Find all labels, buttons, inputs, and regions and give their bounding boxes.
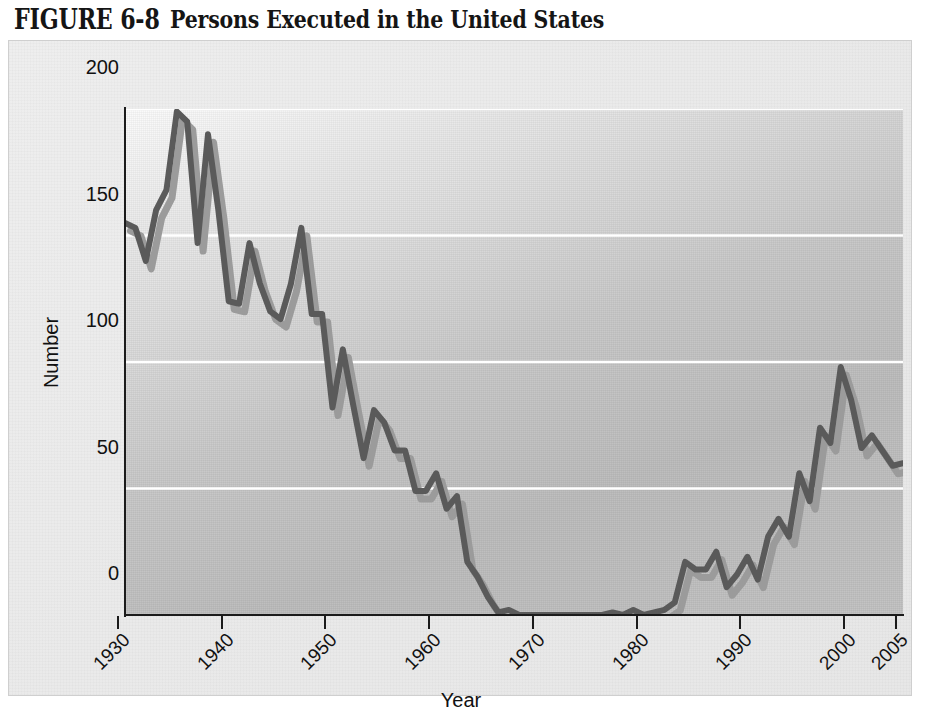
x-tick-label: 1950 (285, 629, 342, 686)
series-line (125, 112, 903, 615)
x-axis-title: Year (9, 689, 913, 712)
x-tick-mark (117, 616, 119, 629)
x-tick-label: 2005 (856, 629, 913, 686)
x-tick-mark (895, 616, 897, 629)
x-tick-label: 1980 (597, 629, 654, 686)
x-tick-mark (324, 616, 326, 629)
y-tick-label: 0 (47, 562, 119, 585)
x-tick-label: 1970 (493, 629, 550, 686)
figure-caption: Persons Executed in the United States (170, 5, 604, 34)
plot-area (125, 109, 903, 615)
x-tick-label: 2000 (804, 629, 861, 686)
figure-panel: 050100150200 Number 19301940195019601970… (8, 40, 912, 696)
x-tick-mark (739, 616, 741, 629)
page-title: FIGURE 6-8 Persons Executed in the Unite… (14, 2, 904, 36)
chart-svg (125, 109, 903, 615)
x-tick-mark (221, 616, 223, 629)
x-tick-label: 1990 (700, 629, 757, 686)
y-tick-label: 200 (47, 56, 119, 79)
figure-number-label: FIGURE 6-8 (14, 4, 160, 35)
figure-page: FIGURE 6-8 Persons Executed in the Unite… (0, 0, 928, 719)
y-axis-line (124, 107, 126, 617)
y-tick-label: 150 (47, 183, 119, 206)
x-tick-mark (532, 616, 534, 629)
series-line-shadow (131, 120, 904, 615)
x-tick-mark (428, 616, 430, 629)
x-tick-label: 1960 (389, 629, 446, 686)
x-tick-mark (843, 616, 845, 629)
x-axis-tick-marks (9, 616, 913, 630)
x-tick-label: 1940 (182, 629, 239, 686)
y-axis-title: Number (40, 293, 63, 413)
x-axis-tick-labels: 193019401950196019701980199020002005 (9, 629, 913, 689)
x-tick-mark (636, 616, 638, 629)
x-tick-label: 1930 (78, 629, 135, 686)
y-tick-label: 50 (47, 436, 119, 459)
